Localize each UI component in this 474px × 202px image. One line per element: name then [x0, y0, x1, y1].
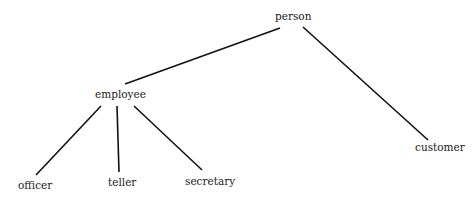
- node-teller: teller: [108, 177, 136, 188]
- edges-layer: [0, 0, 474, 202]
- node-customer: customer: [415, 142, 465, 153]
- edge-employee-secretary: [134, 106, 202, 170]
- specialization-tree-diagram: person employee customer officer teller …: [0, 0, 474, 202]
- edge-employee-teller: [117, 106, 119, 172]
- node-person: person: [275, 11, 311, 22]
- node-employee: employee: [95, 89, 146, 100]
- edge-person-customer: [303, 27, 428, 140]
- node-officer: officer: [18, 180, 52, 191]
- node-secretary: secretary: [185, 176, 235, 187]
- edge-employee-officer: [36, 106, 101, 175]
- edge-person-employee: [125, 28, 280, 84]
